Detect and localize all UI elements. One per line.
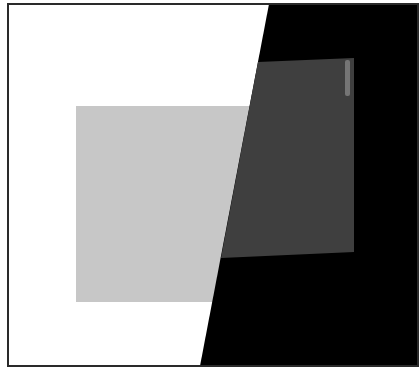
highlight-streak [345, 60, 350, 96]
abstract-artwork [0, 0, 419, 371]
artwork-canvas [0, 0, 419, 371]
